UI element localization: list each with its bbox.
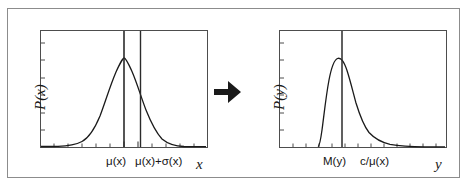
left-tick-label-mean-plus-sigma: μ(x)+σ(x) <box>135 156 182 168</box>
figure-root: P(x) x μ(x) μ(x)+σ(x) <box>0 0 470 189</box>
panel-right: P(y) y M(y) c/μ(x) <box>250 0 470 189</box>
right-tick-label-c-over-mu: c/μ(x) <box>360 156 389 168</box>
panel-left: P(x) x μ(x) μ(x)+σ(x) <box>0 0 215 189</box>
right-arrow-icon <box>212 78 244 106</box>
left-x-axis-label: x <box>196 157 203 172</box>
right-y-axis-label: P(y) <box>272 84 287 110</box>
right-plot-frame <box>280 31 447 148</box>
right-x-axis-label: y <box>435 157 442 172</box>
left-y-axis-label: P(x) <box>33 84 48 110</box>
left-tick-label-mean: μ(x) <box>106 156 126 168</box>
right-tick-label-median: M(y) <box>323 156 346 168</box>
right-curve <box>318 58 445 147</box>
